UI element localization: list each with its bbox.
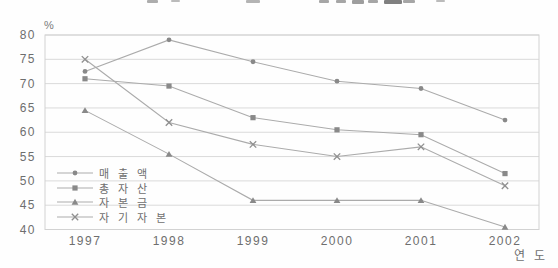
legend-item: 자 본 금 [56, 195, 169, 210]
y-tick-label: 55 [4, 150, 36, 164]
legend-swatch [56, 183, 94, 193]
circle-marker [83, 69, 88, 74]
y-tick-label: 75 [4, 52, 36, 66]
series-line [85, 79, 505, 174]
y-tick-label: 45 [4, 198, 36, 212]
square-marker [72, 185, 77, 190]
y-tick-label: 70 [4, 77, 36, 91]
legend-swatch [56, 212, 94, 222]
line-chart-figure: % 807570656055504540 1997199819992000200… [0, 0, 558, 268]
x-axis-caption: 연 도 [514, 246, 554, 263]
legend-label: 자 기 자 본 [99, 209, 169, 225]
square-marker [334, 127, 339, 132]
x-tick-label: 1999 [221, 234, 285, 248]
square-marker [250, 115, 255, 120]
square-marker [82, 76, 87, 81]
circle-marker [167, 37, 172, 42]
y-tick-label: 50 [4, 174, 36, 188]
y-tick-label: 60 [4, 125, 36, 139]
chart-legend: 매 출 액총 자 산자 본 금자 기 자 본 [56, 166, 169, 224]
circle-marker [419, 86, 424, 91]
square-marker [502, 171, 507, 176]
triangle-marker [166, 151, 173, 157]
circle-marker [335, 79, 340, 84]
x-tick-label: 1997 [53, 234, 117, 248]
y-tick-label: 80 [4, 28, 36, 42]
circle-marker [251, 59, 256, 64]
x-tick-label: 2000 [305, 234, 369, 248]
legend-swatch [56, 168, 94, 178]
x-tick-label: 2001 [389, 234, 453, 248]
square-marker [418, 132, 423, 137]
circle-marker [503, 118, 508, 123]
legend-item: 총 자 산 [56, 181, 169, 196]
x-tick-label: 1998 [137, 234, 201, 248]
plot-area [0, 0, 558, 268]
circle-marker [73, 171, 78, 176]
square-marker [166, 83, 171, 88]
legend-swatch [56, 197, 94, 207]
legend-item: 매 출 액 [56, 166, 169, 181]
legend-item: 자 기 자 본 [56, 210, 169, 225]
y-tick-label: 65 [4, 101, 36, 115]
y-tick-label: 40 [4, 223, 36, 237]
